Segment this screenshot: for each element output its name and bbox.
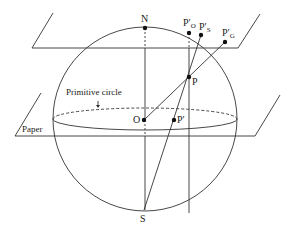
point-N bbox=[143, 26, 147, 30]
label-N: N bbox=[141, 14, 148, 24]
stereographic-line bbox=[144, 35, 201, 210]
label-P-O: P′O bbox=[183, 18, 196, 30]
point-P bbox=[187, 75, 191, 79]
label-P-prime: P′ bbox=[177, 115, 185, 125]
label-P-S: P′S bbox=[199, 22, 211, 34]
label-paper: Paper bbox=[22, 125, 43, 134]
point-P-G bbox=[223, 40, 227, 44]
label-P-G: P′G bbox=[222, 28, 235, 40]
projection-diagram bbox=[0, 0, 292, 232]
gnomonic-line bbox=[144, 42, 225, 120]
label-S: S bbox=[140, 214, 146, 224]
point-P-prime bbox=[172, 118, 176, 122]
label-primitive-circle: Primitive circle bbox=[66, 88, 122, 97]
label-O: O bbox=[133, 115, 140, 125]
point-P-O bbox=[187, 31, 191, 35]
point-O bbox=[142, 118, 146, 122]
label-P: P bbox=[192, 77, 198, 87]
